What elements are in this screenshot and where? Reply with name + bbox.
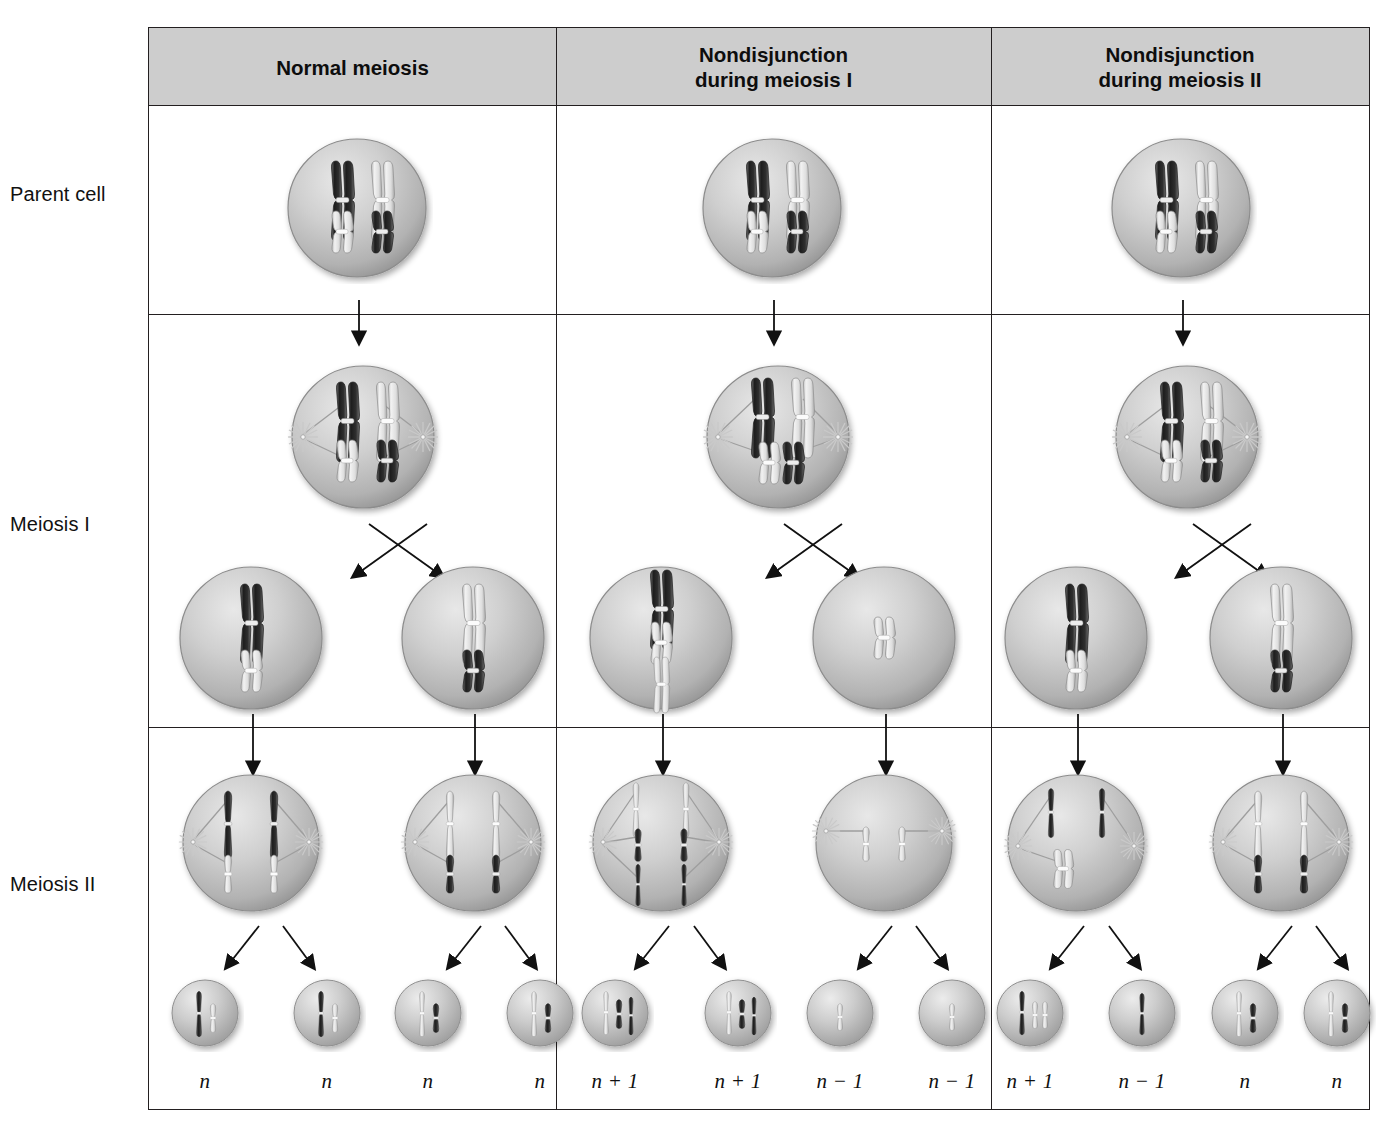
- gamete-nd2-2: [1103, 974, 1181, 1052]
- column-header-nondisjunction-meiosis-1: Nondisjunction during meiosis I: [556, 28, 991, 106]
- arrow-parent-to-meiosis1-nd1: [772, 300, 776, 346]
- gamete-nd1-4: [913, 974, 991, 1052]
- column-header-nondisjunction-2-line2: during meiosis II: [1099, 67, 1262, 92]
- gamete-nd1-2: [699, 974, 777, 1052]
- aster-left-normal-m1: [289, 423, 318, 452]
- cell-meiosis1-product-left-nd2: [997, 559, 1155, 717]
- gamete-nd2-3: [1206, 974, 1284, 1052]
- cell-meiosis1-product-right-nd2: [1202, 559, 1360, 717]
- cell-meiosis1-product-right-normal: [394, 559, 552, 717]
- row-divider-meiosis1-meiosis2: [149, 727, 1369, 728]
- figure-root: Parent cell Meiosis I Meiosis II Normal …: [0, 0, 1393, 1136]
- cell-metaphase1-nondisjunction2: [1104, 357, 1270, 517]
- gamete-nd2-1: [991, 974, 1069, 1052]
- ploidy-label-normal-2: n: [322, 1069, 333, 1094]
- column-divider-1: [556, 28, 557, 1109]
- column-header-nondisjunction-1-line2: during meiosis I: [695, 67, 852, 92]
- cell-meiosis2-left-nd2: [994, 767, 1158, 919]
- arrow-gamete-nd1-3: [848, 924, 900, 972]
- row-divider-parent-meiosis1: [149, 314, 1369, 315]
- arrow-gamete-nd1-4: [910, 924, 962, 972]
- cell-meiosis2-left-nd1: [579, 767, 743, 919]
- arrow-gamete-n2-normal: [277, 924, 329, 972]
- cell-metaphase1-normal: [280, 357, 446, 517]
- cell-meiosis2-right-normal: [391, 767, 555, 919]
- ploidy-label-normal-1: n: [200, 1069, 211, 1094]
- row-label-meiosis-2: Meiosis II: [10, 873, 142, 896]
- column-header-nondisjunction-1-line1: Nondisjunction: [699, 42, 848, 67]
- ploidy-label-nd1-2: n + 1: [714, 1069, 761, 1094]
- ploidy-label-normal-3: n: [423, 1069, 434, 1094]
- gamete-nd1-1: [576, 974, 654, 1052]
- gamete-normal-1: [166, 974, 244, 1052]
- ploidy-label-nd1-4: n − 1: [928, 1069, 975, 1094]
- column-header-nondisjunction-meiosis-2: Nondisjunction during meiosis II: [991, 28, 1369, 106]
- row-label-parent-cell: Parent cell: [10, 183, 142, 206]
- cell-parent-nondisjunction2: [1105, 132, 1257, 284]
- aster-right-normal-m1: [409, 423, 438, 452]
- cell-meiosis2-right-nd2: [1199, 767, 1363, 919]
- cell-parent-normal: [281, 132, 433, 284]
- arrow-gamete-nd2-2: [1103, 924, 1155, 972]
- arrow-gamete-nd2-4: [1310, 924, 1362, 972]
- arrow-gamete-nd1-1: [625, 924, 677, 972]
- cell-parent-nondisjunction1: [696, 132, 848, 284]
- gamete-normal-2: [288, 974, 366, 1052]
- ploidy-label-nd1-1: n + 1: [591, 1069, 638, 1094]
- cell-metaphase1-nondisjunction1: [695, 357, 861, 517]
- gamete-nd2-4: [1298, 974, 1376, 1052]
- gamete-normal-3: [389, 974, 467, 1052]
- arrow-gamete-n3-normal: [437, 924, 489, 972]
- cell-meiosis1-product-right-nd1: [805, 559, 963, 717]
- arrow-gamete-n4-normal: [499, 924, 551, 972]
- ploidy-label-normal-4: n: [535, 1069, 546, 1094]
- column-header-normal-meiosis: Normal meiosis: [149, 28, 556, 106]
- ploidy-label-nd2-3: n: [1240, 1069, 1251, 1094]
- arrow-gamete-nd2-3: [1248, 924, 1300, 972]
- ploidy-label-nd2-1: n + 1: [1006, 1069, 1053, 1094]
- gamete-normal-4: [501, 974, 579, 1052]
- ploidy-label-nd1-3: n − 1: [816, 1069, 863, 1094]
- gamete-nd1-3: [801, 974, 879, 1052]
- arrow-gamete-nd1-2: [688, 924, 740, 972]
- column-header-nondisjunction-2-line1: Nondisjunction: [1105, 42, 1254, 67]
- arrow-gamete-n1-normal: [215, 924, 267, 972]
- column-divider-2: [991, 28, 992, 1109]
- ploidy-label-nd2-4: n: [1332, 1069, 1343, 1094]
- cell-meiosis1-product-left-nd1: [582, 559, 740, 717]
- cell-meiosis2-left-normal: [169, 767, 333, 919]
- column-header-normal-meiosis-label: Normal meiosis: [276, 55, 429, 80]
- arrow-parent-to-meiosis1-nd2: [1181, 300, 1185, 346]
- ploidy-label-nd2-2: n − 1: [1118, 1069, 1165, 1094]
- cell-meiosis1-product-left-normal: [172, 559, 330, 717]
- arrow-gamete-nd2-1: [1040, 924, 1092, 972]
- row-label-meiosis-1: Meiosis I: [10, 513, 142, 536]
- cell-meiosis2-right-nd1: [802, 767, 966, 919]
- arrow-parent-to-meiosis1-normal: [357, 300, 361, 346]
